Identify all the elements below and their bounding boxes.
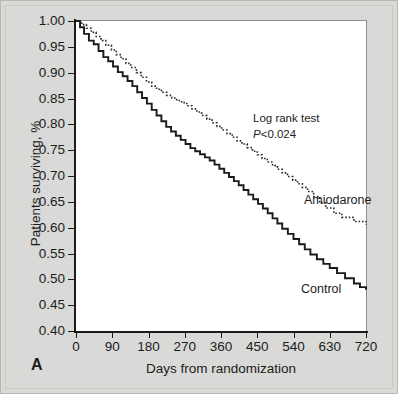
y-tick (68, 99, 75, 100)
y-tick (68, 254, 75, 255)
y-tick (68, 176, 75, 177)
p-value-label: P<0.024 (253, 127, 319, 143)
plot-frame-top-border (76, 20, 367, 21)
y-tick-label: 0.45 (21, 298, 65, 312)
y-tick (68, 202, 75, 203)
y-tick (68, 331, 75, 332)
y-tick (68, 150, 75, 151)
y-tick-label: 0.95 (21, 40, 65, 54)
x-tick (112, 332, 113, 338)
p-value-number: <0.024 (261, 128, 297, 140)
statistical-annotation: Log rank test P<0.024 (253, 111, 319, 142)
y-tick (68, 279, 75, 280)
y-tick (68, 47, 75, 48)
plot-frame-right-border (366, 20, 367, 332)
y-tick (68, 228, 75, 229)
y-axis-title: Patients surviving, % (28, 74, 43, 294)
x-tick-label: 720 (344, 340, 388, 354)
curve-label-amiodarone: Amiodarone (304, 193, 371, 207)
x-tick (294, 332, 295, 338)
y-tick (68, 305, 75, 306)
curve-label-control: Control (301, 282, 341, 296)
p-symbol: P (253, 128, 261, 140)
x-tick (76, 332, 77, 338)
figure-panel: 0.400.450.500.550.600.650.700.750.800.85… (0, 0, 398, 394)
x-tick (257, 332, 258, 338)
y-tick (68, 21, 75, 22)
y-tick-label: 0.40 (21, 324, 65, 338)
x-tick (149, 332, 150, 338)
y-tick (68, 73, 75, 74)
x-tick (221, 332, 222, 338)
logrank-test-label: Log rank test (253, 111, 319, 127)
x-tick (366, 332, 367, 338)
panel-label: A (31, 356, 43, 374)
x-tick (330, 332, 331, 338)
y-tick-label: 1.00 (21, 14, 65, 28)
y-tick (68, 124, 75, 125)
x-tick (185, 332, 186, 338)
x-axis-title: Days from randomization (76, 361, 366, 376)
